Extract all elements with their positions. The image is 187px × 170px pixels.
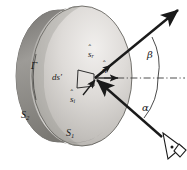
label-gamma: Γ — [31, 62, 37, 71]
disk-object — [16, 6, 132, 146]
label-s1: S1 — [66, 128, 74, 139]
label-beta: β — [147, 50, 153, 60]
scattering-diagram-svg — [0, 0, 187, 170]
label-s-i-hat: ˆsi — [70, 95, 75, 105]
figure-container: Γ S2 S1 ds′ ˆn ˆsr ˆsi β α — [0, 0, 187, 170]
label-n-hat: ˆn — [102, 66, 107, 75]
label-ds-prime: ds′ — [52, 73, 62, 82]
label-s2: S2 — [21, 110, 29, 121]
detector-icon — [163, 133, 186, 159]
angle-arc-beta — [152, 37, 159, 78]
label-s-r-hat: ˆsr — [88, 50, 94, 60]
label-alpha: α — [142, 103, 149, 113]
